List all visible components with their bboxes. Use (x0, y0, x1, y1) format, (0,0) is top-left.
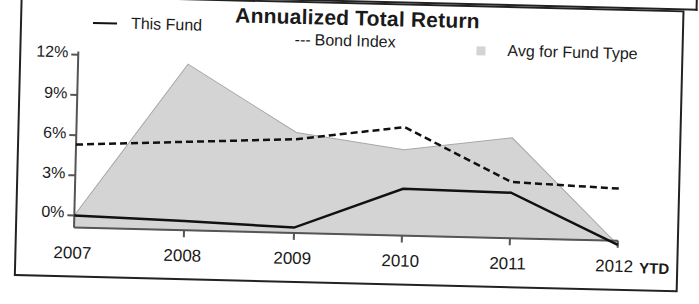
plot-area (0, 0, 696, 304)
x-tick-label: 2011 (489, 254, 526, 275)
x-tick-label: 2009 (273, 248, 311, 269)
avg-fund-type-area (74, 61, 622, 244)
y-axis (74, 52, 78, 228)
x-tick-label: 2007 (53, 243, 91, 264)
chart-stage: Annualized Total Return This Fund --- Bo… (0, 0, 696, 304)
ytd-label: YTD (639, 259, 669, 277)
x-tick-label: 2012 (595, 256, 633, 277)
x-tick-label: 2008 (163, 246, 201, 267)
x-tick-label: 2010 (381, 251, 419, 272)
